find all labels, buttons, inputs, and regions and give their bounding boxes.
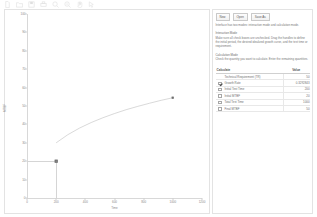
y-tick-mark <box>25 69 27 70</box>
calculation-mode-text: Check the quantity you want to calculate… <box>216 57 310 61</box>
x-tick-mark <box>172 198 173 200</box>
initial-time-guide <box>56 161 57 198</box>
checkbox-total-test-time[interactable] <box>218 101 221 104</box>
intro-text: Interface has two modes: interaction mod… <box>216 23 310 27</box>
final-mtbf-handle[interactable] <box>172 96 175 99</box>
plot-area[interactable]: 0102030405060708090100020040060080010001… <box>27 14 202 198</box>
x-tick-mark <box>56 198 57 200</box>
checkbox-cell <box>216 105 225 111</box>
x-tick-mark <box>114 198 115 200</box>
x-tick-label: 1200 <box>199 200 206 204</box>
file-button-row: New Open Save As <box>216 13 310 21</box>
table-row: Final MTBF50 <box>216 105 310 111</box>
cursor-arrow-icon[interactable] <box>88 1 95 8</box>
print-icon[interactable] <box>40 1 47 8</box>
x-tick-mark <box>27 198 28 200</box>
x-tick-mark <box>85 198 86 200</box>
x-tick-mark <box>202 198 203 200</box>
growth-curve <box>27 14 202 198</box>
x-tick-mark <box>143 198 144 200</box>
checkbox-initial-test-time[interactable] <box>218 88 221 91</box>
label-final-mtbf: Final MTBF <box>225 105 284 111</box>
checkbox-initial-mtbf[interactable] <box>218 94 221 97</box>
toolbar <box>0 0 317 9</box>
y-tick-mark <box>25 87 27 88</box>
initial-mtbf-guide <box>27 161 56 162</box>
plot-figure[interactable]: MTBF Time 010203040506070809010002004006… <box>4 9 210 214</box>
y-tick-mark <box>25 14 27 15</box>
y-tick-mark <box>25 32 27 33</box>
save-disk-icon[interactable] <box>28 1 35 8</box>
x-tick-label: 0 <box>26 200 28 204</box>
open-button[interactable]: Open <box>233 13 248 21</box>
x-tick-label: 600 <box>112 200 117 204</box>
x-axis-label: Time <box>27 206 202 210</box>
x-tick-label: 1000 <box>169 200 176 204</box>
y-axis-label: MTBF <box>3 104 7 112</box>
value-column-header: Value <box>283 67 310 74</box>
x-tick-label: 400 <box>83 200 88 204</box>
calculate-column-header: Calculate <box>216 67 284 74</box>
save-as-button[interactable]: Save As <box>251 13 270 21</box>
y-tick-mark <box>25 50 27 51</box>
table-header-row: Calculate Value <box>216 67 310 74</box>
zoom-out-icon[interactable] <box>64 1 71 8</box>
new-button[interactable]: New <box>216 13 230 21</box>
y-tick-mark <box>25 124 27 125</box>
zoom-in-icon[interactable] <box>52 1 59 8</box>
checkbox-growth-rate[interactable] <box>218 82 221 85</box>
interaction-mode-text: Make sure all check boxes are unchecked.… <box>216 36 310 49</box>
pan-hand-icon[interactable] <box>76 1 83 8</box>
y-tick-mark <box>25 106 27 107</box>
open-folder-icon[interactable] <box>16 1 23 8</box>
x-tick-label: 800 <box>141 200 146 204</box>
y-tick-mark <box>25 142 27 143</box>
initial-mtbf-handle[interactable] <box>55 160 58 163</box>
control-panel: New Open Save As Interface has two modes… <box>212 9 313 214</box>
new-file-icon[interactable] <box>4 1 11 8</box>
checkbox-final-mtbf[interactable] <box>218 107 221 110</box>
x-tick-label: 200 <box>54 200 59 204</box>
calculate-table: Calculate Value Technical Requirement (T… <box>216 67 310 113</box>
y-tick-mark <box>25 179 27 180</box>
value-final-mtbf[interactable]: 50 <box>283 105 310 111</box>
